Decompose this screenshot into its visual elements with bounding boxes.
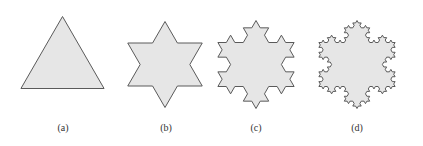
panel-d-snowflake [319, 21, 395, 109]
panel-c-snowflake [218, 21, 294, 109]
panel-b-star [128, 22, 202, 108]
caption-b: (b) [146, 122, 186, 133]
caption-c: (c) [236, 122, 276, 133]
panel-a-triangle [21, 17, 104, 89]
caption-a: (a) [43, 122, 83, 133]
caption-d: (d) [337, 122, 377, 133]
